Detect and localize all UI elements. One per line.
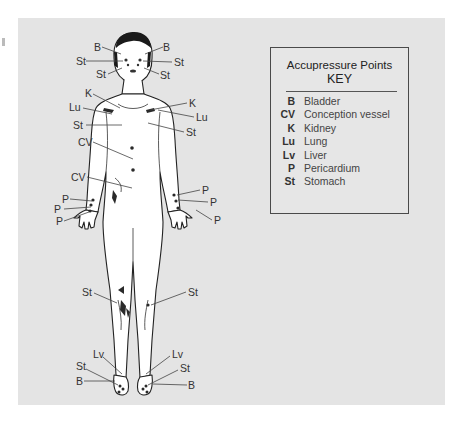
legend-name: Lung <box>304 135 327 148</box>
label-k-left: K <box>85 88 92 99</box>
label-p-right-1: P <box>202 185 209 196</box>
label-k-right: K <box>189 98 196 109</box>
label-st-knee-left: St <box>82 287 92 298</box>
label-st-foot-right: St <box>180 363 190 374</box>
legend-entry: Lu Lung <box>271 135 408 148</box>
label-lu-left: Lu <box>69 102 81 113</box>
label-p-left-3: P <box>56 216 63 227</box>
legend-code: P <box>271 162 304 175</box>
label-p-left-2: P <box>54 204 61 215</box>
label-st-chest-right: St <box>186 127 196 138</box>
legend-entry: K Kidney <box>271 122 408 135</box>
label-p-right-3: P <box>214 215 221 226</box>
label-p-left-1: P <box>62 194 69 205</box>
legend-code: Lu <box>271 135 304 148</box>
legend-divider <box>286 91 397 92</box>
legend-entry: P Pericardium <box>271 162 408 175</box>
legend-code: St <box>271 175 304 188</box>
legend-code: B <box>271 95 304 108</box>
label-p-right-2: P <box>210 197 217 208</box>
legend-name: Liver <box>304 149 327 162</box>
label-head-st2-left: St <box>96 69 106 80</box>
legend-code: CV <box>271 108 304 121</box>
label-head-st1-right: St <box>174 57 184 68</box>
label-lv-right: Lv <box>172 349 183 360</box>
label-st-foot-left: St <box>76 361 86 372</box>
legend-name: Bladder <box>304 95 340 108</box>
label-st-chest-left: St <box>73 120 83 131</box>
label-lu-right: Lu <box>196 112 208 123</box>
legend-entry: Lv Liver <box>271 149 408 162</box>
legend-name: Kidney <box>304 122 336 135</box>
label-head-b-right: B <box>163 42 170 53</box>
legend-code: K <box>271 122 304 135</box>
legend-title: Accupressure Points <box>271 58 408 72</box>
label-b-foot-right: B <box>188 380 195 391</box>
label-cv-lower: CV <box>71 172 86 183</box>
legend-name: Conception vessel <box>304 108 390 121</box>
label-lv-left: Lv <box>93 349 104 360</box>
label-b-foot-left: B <box>76 376 83 387</box>
legend-code: Lv <box>271 149 304 162</box>
legend-subtitle: KEY <box>271 72 408 86</box>
label-cv-upper: CV <box>78 137 93 148</box>
legend-entry: St Stomach <box>271 175 408 188</box>
legend-name: Stomach <box>304 175 345 188</box>
legend-entry: B Bladder <box>271 95 408 108</box>
legend-entry: CV Conception vessel <box>271 108 408 121</box>
label-head-st1-left: St <box>76 56 86 67</box>
label-head-st2-right: St <box>160 70 170 81</box>
label-st-knee-right: St <box>188 287 198 298</box>
legend-name: Pericardium <box>304 162 360 175</box>
right-hand <box>168 210 192 229</box>
label-head-b-left: B <box>94 42 101 53</box>
legend-key-box: Accupressure Points KEY B Bladder CV Con… <box>270 47 409 214</box>
